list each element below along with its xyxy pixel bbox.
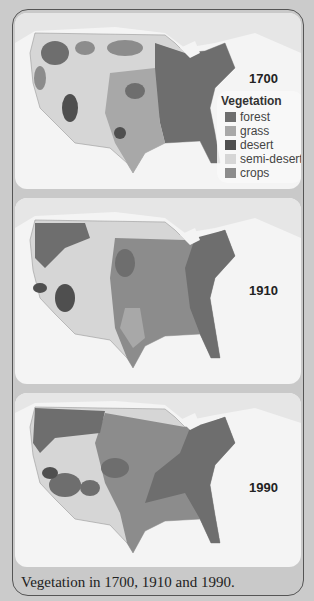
figure-frame: 1700 Vegetation forest grass desert semi… [12,9,304,596]
legend-item-forest: forest [225,110,270,123]
semi-desert-swatch-icon [225,154,236,164]
legend-item-desert: desert [225,138,273,151]
map-panel-1990: 1990 [15,393,301,567]
legend-item-semi-desert: semi-desert [225,152,301,165]
map-panel-1910: 1910 [15,198,301,384]
crops-swatch-icon [225,168,236,178]
legend-title: Vegetation [221,94,282,108]
year-label-1910: 1910 [249,283,278,298]
legend-item-grass: grass [225,124,269,137]
year-label-1700: 1700 [249,71,278,86]
vegetation-legend: Vegetation forest grass desert semi-dese… [217,91,301,183]
legend-item-crops: crops [225,166,269,179]
figure-caption: Vegetation in 1700, 1910 and 1990. [21,574,235,591]
grass-swatch-icon [225,126,236,136]
year-label-1990: 1990 [249,480,278,495]
desert-swatch-icon [225,140,236,150]
map-panel-1700: 1700 Vegetation forest grass desert semi… [15,13,301,189]
forest-swatch-icon [225,112,236,122]
